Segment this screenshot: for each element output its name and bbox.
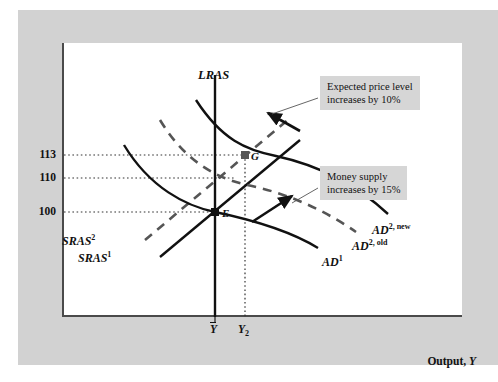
arrow-sras-shift — [268, 113, 300, 131]
curve-label-ad2-old-text: AD — [352, 239, 369, 253]
curve-label-sras1-sup: 1 — [107, 250, 111, 259]
point-label-g: G — [251, 150, 259, 162]
y-tick-100: 100 — [22, 205, 56, 217]
point-label-e: E — [222, 207, 229, 219]
point-marker-g — [241, 151, 249, 159]
x-tick-y2-text: Y — [238, 323, 245, 335]
curve-label-lras: LRAS — [198, 68, 229, 83]
callout-expected-price-line1: Expected price level — [327, 80, 413, 93]
curve-label-ad1-sup: 1 — [339, 254, 343, 263]
x-tick-y-bar-text: Y — [210, 323, 217, 335]
leader-line-expected-price — [272, 98, 318, 114]
curve-label-sras2: SRAS2 — [62, 233, 95, 249]
curve-label-ad2-old-sup: 2, old — [369, 238, 388, 247]
x-axis-title-var: Y — [469, 355, 476, 367]
callout-money-supply-line1: Money supply — [327, 170, 400, 183]
x-tick-y-bar: Y — [210, 323, 217, 335]
x-tick-y2: Y2 — [238, 323, 249, 338]
curve-label-ad2-new-sup: 2, new — [389, 222, 411, 231]
y-tick-110: 110 — [22, 171, 56, 183]
curve-label-ad1-text: AD — [322, 255, 339, 269]
x-tick-y2-sub: 2 — [245, 329, 249, 338]
callout-expected-price-level: Expected price level increases by 10% — [320, 76, 420, 110]
curve-label-sras1: SRAS1 — [78, 250, 111, 266]
arrow-ad-shift — [252, 196, 292, 222]
curve-label-sras2-text: SRAS — [62, 234, 91, 248]
point-marker-e — [211, 208, 219, 216]
callout-money-supply: Money supply increases by 15% — [320, 166, 407, 200]
curve-label-sras1-text: SRAS — [78, 251, 107, 265]
curve-label-ad2-new-text: AD — [372, 223, 389, 237]
x-axis-title: Output, Y — [427, 355, 476, 367]
curve-label-ad2-new: AD2, new — [372, 222, 410, 238]
leader-line-money-supply — [292, 188, 318, 203]
curve-sras2 — [145, 118, 290, 240]
x-axis-title-text: Output, — [427, 355, 469, 367]
as-ad-figure: Price level, P Output, Y 113 110 100 Y Y… — [0, 0, 498, 382]
callout-expected-price-line2: increases by 10% — [327, 93, 413, 106]
curve-label-sras2-sup: 2 — [91, 233, 95, 242]
callout-money-supply-line2: increases by 15% — [327, 183, 400, 196]
curve-label-ad2-old: AD2, old — [352, 238, 387, 254]
curve-label-ad1: AD1 — [322, 254, 343, 270]
y-tick-113: 113 — [22, 148, 56, 160]
